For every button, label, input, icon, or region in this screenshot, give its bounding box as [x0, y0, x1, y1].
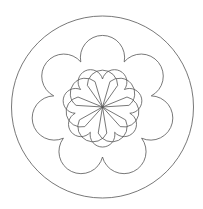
inner-petal	[103, 78, 135, 107]
middle-petal	[103, 70, 127, 90]
mandala-diagram	[0, 0, 203, 209]
outer-petal	[59, 138, 103, 173]
inner-petal	[66, 97, 102, 127]
inner-petal	[103, 97, 139, 127]
inner-petal	[70, 78, 102, 107]
outer-petal	[42, 54, 81, 96]
middle-petal	[78, 70, 102, 90]
outer-petal	[103, 138, 147, 173]
outer-petal	[32, 96, 63, 140]
middle-petal	[90, 132, 115, 147]
outer-petal	[80, 35, 124, 62]
outer-petal-ring	[32, 35, 173, 173]
inner-petal-ring	[66, 70, 139, 142]
inner-petal	[87, 70, 117, 107]
outer-petal	[142, 96, 173, 140]
outer-petal	[124, 54, 163, 96]
